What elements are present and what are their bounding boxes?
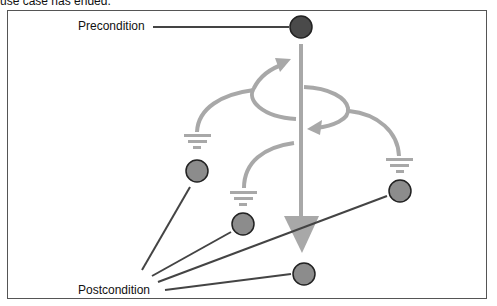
right-loop-arrowhead bbox=[307, 120, 322, 135]
postcondition-leader-line-4 bbox=[165, 274, 291, 290]
use-case-flow-diagram bbox=[0, 0, 497, 306]
postcondition-label: Postcondition bbox=[78, 283, 150, 297]
basic-flow-arrowhead bbox=[284, 216, 319, 253]
right-ground-icon bbox=[386, 158, 413, 173]
postcondition-leader-line-1 bbox=[142, 187, 190, 270]
right-branch-path bbox=[349, 111, 399, 156]
alt-flow-right-end-icon bbox=[389, 180, 411, 202]
basic-flow-end-icon bbox=[293, 263, 315, 285]
left-ground-icon bbox=[184, 134, 211, 149]
precondition-node-icon bbox=[290, 16, 312, 38]
middle-branch-path bbox=[244, 143, 294, 188]
right-loop-path bbox=[304, 87, 348, 128]
left-branch-path bbox=[197, 90, 254, 132]
postcondition-leader-line-3 bbox=[158, 196, 387, 282]
middle-ground-icon bbox=[230, 191, 257, 206]
alt-flow-left-end-icon bbox=[186, 160, 208, 182]
left-loop-path bbox=[252, 64, 296, 119]
alt-flow-middle-end-icon bbox=[232, 213, 254, 235]
precondition-label: Precondition bbox=[78, 19, 145, 33]
